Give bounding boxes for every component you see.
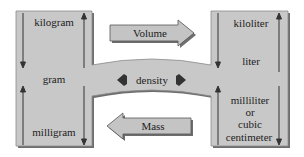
unit-gram: gram (30, 73, 78, 85)
mass-arrow-label: Mass (128, 120, 178, 132)
density-label: density (127, 74, 177, 86)
unit-liter: liter (225, 55, 277, 67)
unit-cubic: cubic (222, 118, 278, 130)
unit-kilogram: kilogram (30, 16, 78, 28)
unit-milliliter: milliliter (222, 94, 278, 106)
unit-kiloliter: kiloliter (225, 17, 277, 29)
unit-centimeter: centimeter (220, 131, 278, 143)
unit-milligram: milligram (28, 126, 80, 138)
volume-arrow-label: Volume (125, 27, 175, 39)
unit-or: or (222, 106, 278, 118)
mass-volume-density-diagram: kilogram gram milligram kiloliter liter … (0, 0, 304, 157)
